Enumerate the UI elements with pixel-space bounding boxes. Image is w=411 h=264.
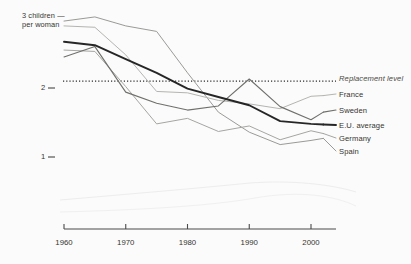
series-line-sweden — [64, 47, 323, 120]
series-line-france — [64, 26, 323, 109]
legend-leader-spain — [323, 138, 336, 151]
plot-area — [0, 0, 411, 264]
background-artifact — [60, 182, 356, 200]
fertility-rate-line-chart: 3 children — per woman 2 1 1960 1970 198… — [0, 0, 411, 264]
series-line-germany — [64, 50, 323, 140]
legend-leader-france — [323, 94, 336, 96]
series-line-e-u-average — [64, 42, 323, 125]
background-artifact-2 — [60, 194, 356, 212]
legend-leader-germany — [323, 134, 336, 138]
legend-leader-sweden — [323, 110, 336, 112]
